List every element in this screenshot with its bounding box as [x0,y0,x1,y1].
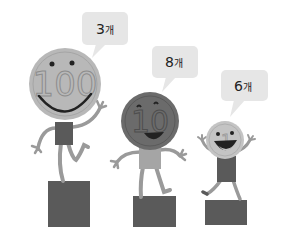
leg-icon [156,167,170,192]
pedestal-1 [205,200,247,225]
eye-icon [216,132,220,136]
eye-icon [230,131,234,135]
leg-icon [141,167,143,197]
coin-character-10: 10 [111,92,186,227]
body-10 [139,147,161,169]
speech-bubble-100: 3개 [82,12,128,58]
arm-icon [38,128,56,148]
body-100 [55,122,73,145]
speech-bubble-10: 8개 [152,46,198,92]
leg-icon [233,180,240,199]
pedestal-100 [48,181,90,227]
leg-icon [207,180,221,194]
hand-icon [97,101,106,108]
speech-bubble-1: 6개 [221,70,268,117]
eye-icon [70,61,75,66]
coin-character-100: 100 [29,48,106,227]
pedestal-10 [133,196,176,227]
coin-characters-illustration: 100 10 [0,0,282,239]
hand-icon [248,135,255,140]
foot-icon [203,192,207,194]
arm-icon [117,152,140,162]
hand-icon [198,135,206,140]
hand-icon [111,161,118,168]
eye-icon [50,62,55,67]
body-1 [217,156,236,182]
leg-icon [60,143,63,181]
hand-icon [180,150,186,160]
leg-icon [68,143,88,160]
arm-icon [160,150,180,156]
coin-character-1: 1 [198,121,255,225]
